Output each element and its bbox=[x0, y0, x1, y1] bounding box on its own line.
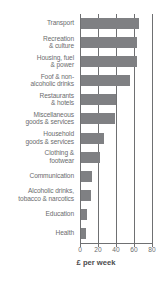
category-axis-labels: TransportRecreation& cultureHousing, fue… bbox=[0, 14, 76, 243]
bar-fill bbox=[81, 37, 137, 48]
bar bbox=[81, 190, 91, 201]
category-label-line: Alcoholic drinks, bbox=[0, 187, 74, 195]
category-label-line: footwear bbox=[0, 157, 74, 165]
tick-label-40: 40 bbox=[109, 245, 123, 254]
category-label: Communication bbox=[0, 172, 74, 180]
bar bbox=[81, 113, 115, 124]
category-label: Recreation& culture bbox=[0, 35, 74, 50]
category-label-line: Foof & non- bbox=[0, 73, 74, 81]
bar bbox=[81, 171, 92, 182]
tick-label-80: 80 bbox=[145, 245, 159, 254]
category-label: Foof & non-alcoholic drinks bbox=[0, 73, 74, 88]
bar-fill bbox=[81, 190, 91, 201]
bar-fill bbox=[81, 152, 100, 163]
category-label: Education bbox=[0, 210, 74, 218]
category-label: Miscellaneousgoods & services bbox=[0, 111, 74, 126]
category-label-line: Housing, fuel bbox=[0, 54, 74, 62]
bar bbox=[81, 94, 116, 105]
bar bbox=[81, 228, 86, 239]
tick-label-60: 60 bbox=[127, 245, 141, 254]
category-label-line: Transport bbox=[0, 19, 74, 27]
bar-fill bbox=[81, 18, 139, 29]
bar-fill bbox=[81, 209, 87, 220]
axis-title: £ per week bbox=[0, 258, 162, 267]
bar bbox=[81, 209, 87, 220]
bar-fill bbox=[81, 75, 130, 86]
bar-chart: TransportRecreation& cultureHousing, fue… bbox=[0, 0, 162, 285]
category-label-line: Health bbox=[0, 229, 74, 237]
category-label-line: tobacco & narcotics bbox=[0, 195, 74, 203]
plot-area bbox=[80, 14, 152, 243]
value-axis-tick-labels: 020406080 bbox=[0, 245, 162, 256]
category-label-line: & hotels bbox=[0, 99, 74, 107]
gridline-40 bbox=[116, 14, 117, 243]
category-label-line: Household bbox=[0, 130, 74, 138]
bar bbox=[81, 152, 100, 163]
category-label-line: alcoholic drinks bbox=[0, 80, 74, 88]
category-label-line: & culture bbox=[0, 42, 74, 50]
bar bbox=[81, 56, 137, 67]
bar bbox=[81, 37, 137, 48]
category-label: Clothing &footwear bbox=[0, 149, 74, 164]
bar bbox=[81, 18, 139, 29]
bar-fill bbox=[81, 171, 92, 182]
gridline-60 bbox=[134, 14, 135, 243]
bar-fill bbox=[81, 228, 86, 239]
tick-label-20: 20 bbox=[91, 245, 105, 254]
category-label-line: Clothing & bbox=[0, 149, 74, 157]
bar-fill bbox=[81, 94, 116, 105]
bar-fill bbox=[81, 133, 104, 144]
category-label: Alcoholic drinks,tobacco & narcotics bbox=[0, 187, 74, 202]
bar bbox=[81, 133, 104, 144]
gridline-20 bbox=[98, 14, 99, 243]
category-label-line: goods & services bbox=[0, 138, 74, 146]
tick-label-0: 0 bbox=[73, 245, 87, 254]
bar-fill bbox=[81, 113, 115, 124]
category-label-line: Miscellaneous bbox=[0, 111, 74, 119]
category-label-line: Restaurants bbox=[0, 92, 74, 100]
category-label-line: Communication bbox=[0, 172, 74, 180]
gridline-80 bbox=[152, 14, 153, 243]
bar-fill bbox=[81, 56, 137, 67]
category-label: Housing, fuel& power bbox=[0, 54, 74, 69]
bar bbox=[81, 75, 130, 86]
category-label: Restaurants& hotels bbox=[0, 92, 74, 107]
category-label-line: Recreation bbox=[0, 35, 74, 43]
category-label: Health bbox=[0, 229, 74, 237]
category-label: Householdgoods & services bbox=[0, 130, 74, 145]
category-label-line: goods & services bbox=[0, 118, 74, 126]
category-label-line: Education bbox=[0, 210, 74, 218]
category-label: Transport bbox=[0, 19, 74, 27]
category-label-line: & power bbox=[0, 61, 74, 69]
